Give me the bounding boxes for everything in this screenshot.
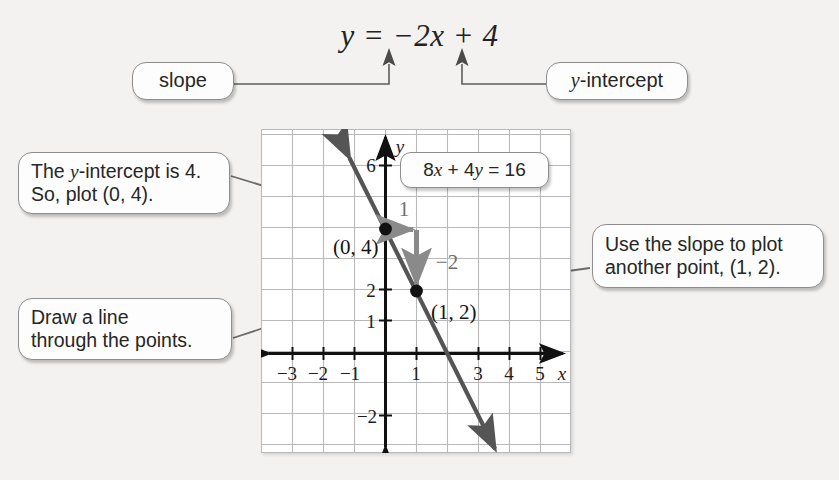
- callout-slope[interactable]: slope: [132, 62, 234, 100]
- x-tick-label-5: 5: [535, 363, 545, 384]
- callout-y-intercept-is-4-line2: So, plot (0, 4).: [31, 183, 217, 206]
- point-0-4: [379, 223, 392, 236]
- callout-slope-label: slope: [159, 69, 207, 93]
- point-label-0-4: (0, 4): [333, 235, 379, 259]
- callout-draw-line-line1: Draw a line: [31, 306, 219, 329]
- slope-rise-label: −2: [436, 250, 458, 274]
- x-tick-label-1: 1: [411, 363, 421, 384]
- callout-draw-line[interactable]: Draw a line through the points.: [18, 298, 232, 360]
- point-label-1-2: (1, 2): [431, 300, 477, 324]
- callout-use-slope-line2: another point, (1, 2).: [605, 256, 811, 279]
- callout-y-intercept-label: y-intercept: [571, 69, 663, 93]
- y-tick-label-1: 1: [366, 311, 376, 332]
- figure-root: y = −2x + 4: [0, 0, 839, 480]
- x-tick-label-3: 3: [473, 363, 483, 384]
- callout-use-slope[interactable]: Use the slope to plot another point, (1,…: [592, 224, 824, 288]
- x-tick-label-4: 4: [504, 363, 514, 384]
- callout-use-slope-line1: Use the slope to plot: [605, 233, 811, 256]
- callout-y-intercept-is-4-line1: The y-intercept is 4.: [31, 160, 217, 183]
- callout-y-intercept[interactable]: y-intercept: [546, 62, 688, 100]
- x-tick-label--2: −2: [308, 363, 328, 384]
- callout-y-intercept-is-4[interactable]: The y-intercept is 4. So, plot (0, 4).: [18, 152, 230, 214]
- y-tick-label-2: 2: [366, 280, 376, 301]
- x-tick-label--3: −3: [277, 363, 297, 384]
- page-equation: y = −2x + 4: [0, 18, 839, 54]
- callout-graph-equation-label: 8x + 4y = 16: [423, 159, 525, 181]
- callout-graph-equation[interactable]: 8x + 4y = 16: [400, 152, 549, 188]
- x-axis-label: x: [557, 363, 567, 384]
- point-1-2: [410, 285, 423, 298]
- leader-slope: [234, 64, 389, 84]
- x-tick-label--1: −1: [340, 363, 360, 384]
- leader-y-intercept: [462, 64, 546, 84]
- callout-draw-line-line2: through the points.: [31, 329, 219, 352]
- y-tick-label--2: −2: [357, 406, 377, 427]
- slope-run-label: 1: [399, 197, 410, 221]
- y-tick-label-6: 6: [366, 155, 376, 176]
